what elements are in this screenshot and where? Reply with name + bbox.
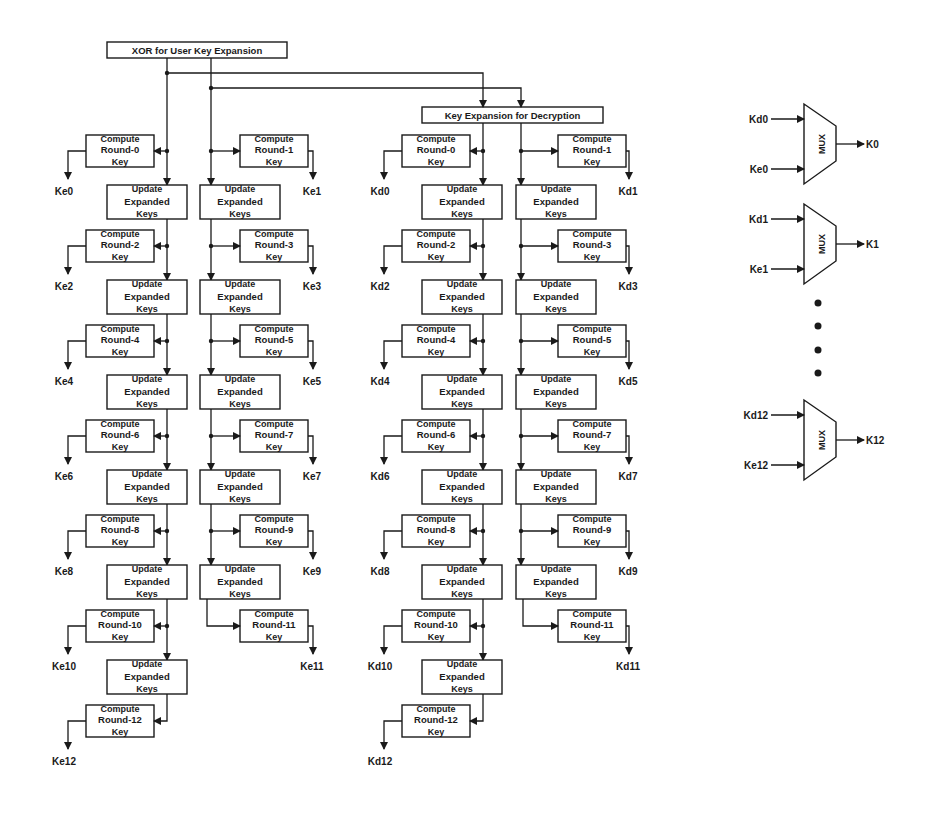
junction-dot	[209, 434, 213, 438]
compute-label: Compute	[255, 134, 294, 144]
encryption-out-6	[68, 436, 86, 464]
round-label: Round-2	[101, 239, 140, 250]
round-label: Round-6	[417, 429, 456, 440]
encryption-update-box-right-3: UpdateExpandedKeys	[200, 469, 280, 504]
junction-dot	[209, 339, 213, 343]
encryption-out-0	[68, 151, 86, 179]
key-output-ke10: Ke10	[52, 661, 76, 672]
decryption-update-box-right-4: UpdateExpandedKeys	[516, 564, 596, 599]
compute-label: Compute	[101, 419, 140, 429]
keys-label: Keys	[545, 209, 567, 219]
key-label: Key	[584, 442, 601, 452]
key-label: Key	[112, 347, 129, 357]
keys-label: Keys	[545, 304, 567, 314]
encryption-out-5	[308, 341, 313, 369]
update-label: Update	[132, 469, 163, 479]
encryption-out-7	[308, 436, 313, 464]
key-output-kd6: Kd6	[371, 471, 390, 482]
decryption-update-box-left-3: UpdateExpandedKeys	[422, 469, 502, 504]
update-label: Update	[541, 564, 572, 574]
round-label: Round-3	[255, 239, 294, 250]
decryption-update-box-left-0: UpdateExpandedKeys	[422, 184, 502, 219]
key-label: Key	[112, 442, 129, 452]
keys-label: Keys	[136, 209, 158, 219]
encryption-out-4	[68, 341, 86, 369]
encryption-update-box-left-0: UpdateExpandedKeys	[107, 184, 187, 219]
update-label: Update	[132, 374, 163, 384]
mux-k1: MUX	[804, 204, 836, 284]
junction-dot	[165, 339, 169, 343]
junction-dot	[209, 244, 213, 248]
junction-dot	[519, 529, 523, 533]
decryption-update-box-left-2: UpdateExpandedKeys	[422, 374, 502, 409]
compute-label: Compute	[255, 229, 294, 239]
key-output-ke1: Ke1	[303, 186, 322, 197]
mux-label: MUX	[817, 134, 827, 154]
key-label: Key	[584, 537, 601, 547]
expanded-label: Expanded	[124, 291, 170, 302]
key-output-kd7: Kd7	[619, 471, 638, 482]
key-label: Key	[266, 442, 283, 452]
expanded-label: Expanded	[124, 671, 170, 682]
compute-label: Compute	[573, 229, 612, 239]
key-output-kd12: Kd12	[368, 756, 393, 767]
mux-label: MUX	[817, 234, 827, 254]
encryption-out-3	[308, 246, 313, 274]
decryption-out-0	[384, 151, 402, 179]
encryption-compute-round-1: ComputeRound-1Key	[240, 134, 308, 167]
decryption-compute-round-12: ComputeRound-12Key	[402, 704, 470, 737]
round-label: Round-7	[573, 429, 612, 440]
keys-label: Keys	[451, 589, 473, 599]
xor-to-decrypt-wire-left	[167, 73, 483, 107]
junction-dot	[519, 149, 523, 153]
update-label: Update	[541, 374, 572, 384]
compute-label: Compute	[573, 609, 612, 619]
encryption-update-box-right-1: UpdateExpandedKeys	[200, 279, 280, 314]
encryption-update-box-right-4: UpdateExpandedKeys	[200, 564, 280, 599]
expanded-label: Expanded	[124, 196, 170, 207]
expanded-label: Expanded	[217, 291, 263, 302]
round-label: Round-8	[417, 524, 456, 535]
decryption-compute-round-3: ComputeRound-3Key	[558, 229, 626, 262]
compute-label: Compute	[101, 324, 140, 334]
expanded-label: Expanded	[217, 576, 263, 587]
key-label: Key	[428, 252, 445, 262]
ellipsis-dot	[815, 347, 822, 354]
decryption-compute-round-9: ComputeRound-9Key	[558, 514, 626, 547]
mux-input-label-kd12: Kd12	[744, 410, 769, 421]
decryption-tap-11	[523, 599, 558, 626]
update-label: Update	[447, 564, 478, 574]
key-label: Key	[112, 157, 129, 167]
keys-label: Keys	[229, 589, 251, 599]
ellipsis-dot	[815, 370, 822, 377]
keys-label: Keys	[136, 494, 158, 504]
expanded-label: Expanded	[124, 481, 170, 492]
mux-output-label-k1: K1	[866, 239, 879, 250]
round-label: Round-9	[573, 524, 612, 535]
mux-input-label-ke12: Ke12	[744, 460, 768, 471]
expanded-label: Expanded	[439, 481, 485, 492]
key-label: Key	[428, 537, 445, 547]
junction-dot	[209, 529, 213, 533]
compute-label: Compute	[101, 704, 140, 714]
round-label: Round-9	[255, 524, 294, 535]
round-label: Round-0	[417, 144, 456, 155]
compute-label: Compute	[417, 609, 456, 619]
compute-label: Compute	[101, 229, 140, 239]
key-label: Key	[266, 347, 283, 357]
update-label: Update	[541, 279, 572, 289]
key-label: Key	[584, 157, 601, 167]
compute-label: Compute	[417, 514, 456, 524]
compute-label: Compute	[573, 419, 612, 429]
ellipsis-dot	[815, 300, 822, 307]
key-label: Key	[112, 632, 129, 642]
compute-label: Compute	[417, 229, 456, 239]
decryption-out-2	[384, 246, 402, 274]
encryption-out-2	[68, 246, 86, 274]
encryption-tap-12	[154, 694, 167, 721]
encryption-compute-round-6: ComputeRound-6Key	[86, 419, 154, 452]
round-label: Round-5	[255, 334, 294, 345]
expanded-label: Expanded	[533, 576, 579, 587]
encryption-out-9	[308, 531, 313, 559]
decryption-update-box-right-3: UpdateExpandedKeys	[516, 469, 596, 504]
